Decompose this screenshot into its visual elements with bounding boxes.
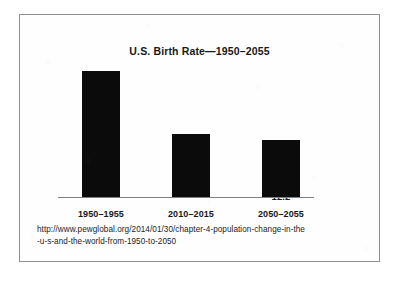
- bar-category-label: 2050–2055: [230, 209, 332, 219]
- bar-category-label: 1950–1955: [50, 209, 152, 219]
- bar-rect: [82, 71, 120, 197]
- bar-rect: [172, 134, 210, 197]
- bar-rect: [262, 140, 300, 197]
- source-url-caption: http://www.pewglobal.org/2014/01/30/chap…: [37, 224, 367, 247]
- bar-category-label: 2010–2015: [140, 209, 242, 219]
- source-url-line-1: http://www.pewglobal.org/2014/01/30/chap…: [37, 224, 367, 236]
- figure-frame: U.S. Birth Rate—1950–2055 24.4 1950–1955…: [19, 14, 380, 262]
- x-axis-baseline: [58, 197, 314, 198]
- source-url-line-2: -u-s-and-the-world-from-1950-to-2050: [37, 236, 367, 248]
